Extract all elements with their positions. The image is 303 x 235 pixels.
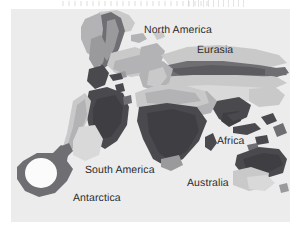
map-panel: North America Eurasia Africa South Ameri…	[11, 9, 290, 222]
scan-artifact-icon	[62, 1, 212, 6]
world-map-graphic	[11, 9, 290, 222]
scan-artifact-secondary-icon	[188, 0, 246, 7]
figure-container: North America Eurasia Africa South Ameri…	[0, 0, 303, 235]
landmass-australia	[233, 147, 289, 193]
an-ring-inner-hole	[25, 158, 57, 188]
